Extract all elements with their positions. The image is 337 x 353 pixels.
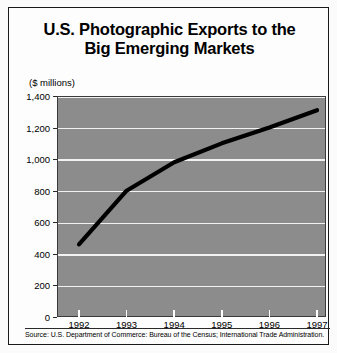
y-axis-tick-label: 1,400 bbox=[26, 91, 50, 102]
series-polyline bbox=[79, 110, 317, 244]
y-axis-unit-note: ($ millions) bbox=[29, 77, 75, 88]
y-axis-tick-label: 800 bbox=[34, 185, 50, 196]
y-axis-tick-label: 600 bbox=[34, 217, 50, 228]
source-divider bbox=[25, 328, 330, 329]
y-axis-tick-label: 1,000 bbox=[26, 154, 50, 165]
x-axis-tick-mark bbox=[269, 310, 271, 317]
y-axis: 02004006008001,0001,2001,400 bbox=[9, 96, 53, 317]
chart-figure: U.S. Photographic Exports to the Big Eme… bbox=[0, 0, 337, 353]
chart-title: U.S. Photographic Exports to the Big Eme… bbox=[21, 20, 318, 58]
chart-title-line-2: Big Emerging Markets bbox=[21, 39, 318, 58]
y-axis-tick-label: 1,200 bbox=[26, 122, 50, 133]
source-note: Source: U.S. Department of Commerce: Bur… bbox=[25, 331, 333, 338]
data-line-series bbox=[57, 96, 326, 317]
y-axis-tick-label: 400 bbox=[34, 248, 50, 259]
x-axis-tick-mark bbox=[316, 310, 318, 317]
x-axis-tick-mark bbox=[221, 310, 223, 317]
chart-frame: U.S. Photographic Exports to the Big Eme… bbox=[8, 7, 329, 345]
x-axis-tick-mark bbox=[126, 310, 128, 317]
chart-title-line-1: U.S. Photographic Exports to the bbox=[43, 20, 295, 38]
x-axis-tick-mark bbox=[173, 310, 175, 317]
y-axis-tick-label: 200 bbox=[34, 280, 50, 291]
x-axis-tick-mark bbox=[78, 310, 80, 317]
